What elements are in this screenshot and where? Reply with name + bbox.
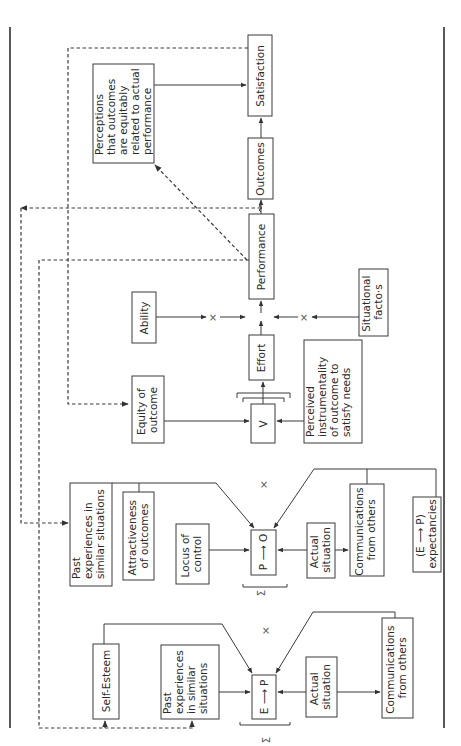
expectancy-model-diagram: Satisfaction Perceptions that outcomes a… [0,0,461,746]
svg-text:Locus of control: Locus of control [179,531,203,578]
box-effort: Effort [249,335,274,380]
box-equity-of-outcome: Equity of outcome [132,376,164,443]
box-self-esteem: Self-Esteem [93,644,119,719]
box-past-experiences-ep: Past experiences in similar situations [161,645,219,719]
sum-symbol-ep: Σ [261,737,272,743]
svg-text:Actual situation: Actual situation [308,527,332,573]
svg-text:Equity of outcome: Equity of outcome [135,385,159,435]
box-actual-situation-ep: Actual situation [306,657,337,717]
box-outcomes: Outcomes [248,138,273,199]
box-satisfaction: Satisfaction [248,35,272,116]
svg-text:Actual situation: Actual situation [308,664,332,710]
multiply-symbol-ep: × [262,625,270,636]
box-ep-expectancies: (E ⟶ P) expectancies [413,497,441,572]
sum-bracket-po [243,584,287,587]
box-locus-of-control: Locus of control [176,524,209,584]
multiply-symbol-situational: × [300,312,308,323]
svg-text:Self-Esteem: Self-Esteem [100,650,112,712]
multiply-symbol-ability: × [209,312,217,323]
box-ability: Ability [132,292,156,343]
box-situational-factors: Situational facto·s [359,269,388,336]
box-perceptions-equity: Perceptions that outcomes are equitably … [93,64,154,163]
svg-text:Ability: Ability [138,302,150,335]
svg-text:Effort: Effort [255,344,267,373]
box-e-to-p: E ⟶ P [252,675,276,719]
svg-text:Outcomes: Outcomes [254,142,266,195]
box-perceived-instrumentality: Perceived instrumentality of outcome to … [304,340,362,443]
multiply-symbol-po: × [260,479,268,490]
svg-text:E ⟶ P: E ⟶ P [258,680,270,715]
svg-text:Attractiveness of outcom: Attractiveness of outcomes [126,497,150,576]
box-valence: V [251,404,275,443]
box-p-to-o: P ⟶ O [251,530,276,575]
svg-text:Performance: Performance [255,224,267,291]
svg-text:Satisfaction: Satisfaction [254,45,266,107]
sum-symbol-po: Σ [256,590,267,596]
svg-text:P ⟶ O: P ⟶ O [257,534,269,570]
sum-bracket-ep [240,722,290,725]
box-attractiveness: Attractiveness of outcomes [123,492,154,580]
box-actual-situation-po: Actual situation [307,523,335,578]
box-past-experiences-po: Past experiences in similar situations [70,483,112,586]
svg-text:V: V [257,420,269,428]
box-communications-po: Communications from others [350,484,384,576]
box-performance: Performance [249,214,274,299]
box-communications-ep: Communications from others [382,618,413,718]
